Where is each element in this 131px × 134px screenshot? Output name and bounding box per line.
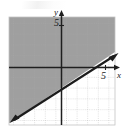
y-axis-tick-label: 5 [54, 18, 59, 28]
y-axis-label: y [54, 8, 58, 17]
graph-screenshot: y 5 5 x [0, 0, 131, 134]
x-axis-tick-label: 5 [101, 71, 106, 81]
x-axis-label: x [117, 71, 121, 80]
plot-area: y 5 5 x [0, 0, 131, 134]
coordinate-plane-svg [0, 0, 131, 134]
